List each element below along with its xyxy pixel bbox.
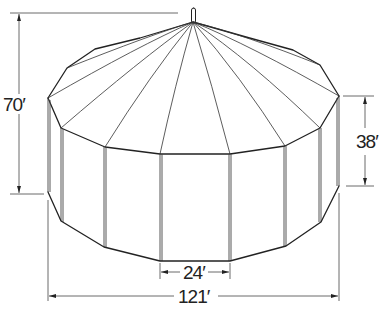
wall-height-label: 38′ <box>356 131 379 152</box>
dimension-total-height: 70′ <box>3 13 178 194</box>
dimension-panel-width: 24′ <box>160 262 230 283</box>
roof-outline <box>48 22 339 98</box>
dimension-wall-height: 38′ <box>343 96 379 186</box>
tent-diagram: 70′ 38′ 24′ 121′ <box>0 0 382 313</box>
diameter-label: 121′ <box>178 286 211 307</box>
total-height-label: 70′ <box>3 94 26 115</box>
finial <box>192 8 196 23</box>
ground-line <box>48 186 339 261</box>
panel-width-label: 24′ <box>183 262 206 283</box>
dimension-diameter: 121′ <box>48 193 339 307</box>
roof-ribs <box>48 22 339 154</box>
wall-panels <box>48 96 339 261</box>
